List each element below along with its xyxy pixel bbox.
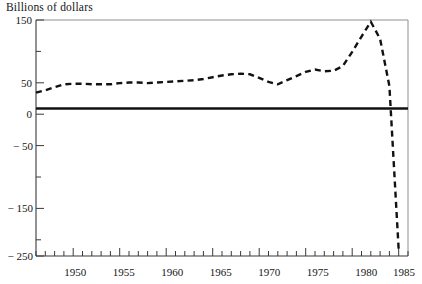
y-axis-major-ticks (36, 20, 44, 256)
chart-plot-area: 150 50 0 − 50 − 150 − 250 1950 1955 1960… (0, 0, 422, 284)
y-label-50: 50 (21, 77, 33, 89)
x-label-1955: 1955 (113, 266, 136, 278)
x-label-1980: 1980 (355, 266, 378, 278)
chart-figure: Billions of dollars 150 (0, 0, 422, 284)
plot-frame (36, 20, 408, 256)
y-label-150: 150 (16, 14, 33, 26)
y-label-neg50: − 50 (13, 140, 33, 152)
x-label-1975: 1975 (307, 266, 330, 278)
x-label-1950: 1950 (64, 266, 87, 278)
x-axis-labels: 1950 1955 1960 1965 1970 1975 1980 1985 (64, 266, 415, 278)
y-label-neg250: − 250 (8, 250, 34, 262)
y-label-0: 0 (27, 108, 33, 120)
x-label-1960: 1960 (161, 266, 184, 278)
x-label-1985: 1985 (393, 266, 416, 278)
x-label-1965: 1965 (210, 266, 233, 278)
y-axis-labels: 150 50 0 − 50 − 150 − 250 (8, 14, 34, 262)
x-label-1970: 1970 (258, 266, 281, 278)
y-label-neg150: − 150 (8, 202, 34, 214)
data-series-line (36, 22, 399, 250)
axis-group (36, 20, 408, 256)
x-axis-ticks (36, 248, 408, 256)
